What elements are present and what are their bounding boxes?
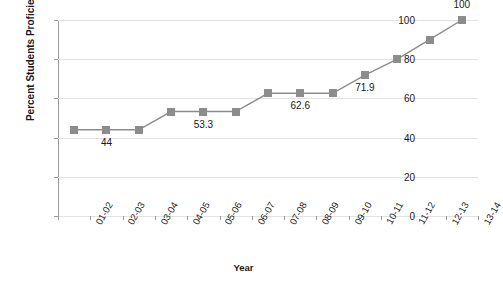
x-tick-mark [413,216,414,220]
data-point-marker [199,108,207,116]
x-tick-mark [187,216,188,220]
data-point-marker [102,126,110,134]
data-point-marker [393,55,401,63]
data-point-label: 44 [101,137,112,148]
x-axis-title: Year [0,262,487,273]
data-point-marker [135,126,143,134]
x-tick-mark [478,216,479,220]
y-axis-title: Percent Students Proficient [25,0,36,156]
data-point-label: 100 [454,0,471,10]
data-point-marker [264,89,272,97]
data-point-marker [232,108,240,116]
x-tick-mark [155,216,156,220]
x-tick-mark [284,216,285,220]
data-point-label: 53.3 [194,119,213,130]
x-tick-label: 13-14 [481,200,503,227]
data-point-marker [458,16,466,24]
data-point-marker [70,126,78,134]
x-tick-mark [316,216,317,220]
data-point-marker [426,36,434,44]
x-tick-mark [349,216,350,220]
data-point-label: 71.9 [355,82,374,93]
x-tick-mark [381,216,382,220]
data-point-label: 62.6 [291,100,310,111]
series-line [58,20,478,216]
x-tick-mark [252,216,253,220]
data-point-marker [296,89,304,97]
series-polyline [74,20,462,130]
x-tick-mark [220,216,221,220]
data-point-marker [329,89,337,97]
x-tick-mark [90,216,91,220]
x-tick-mark [446,216,447,220]
plot-area: 020406080100 4453.362.671.9100 [58,20,478,216]
x-tick-mark [123,216,124,220]
data-point-marker [361,71,369,79]
x-tick-mark [58,216,59,220]
data-point-marker [167,108,175,116]
